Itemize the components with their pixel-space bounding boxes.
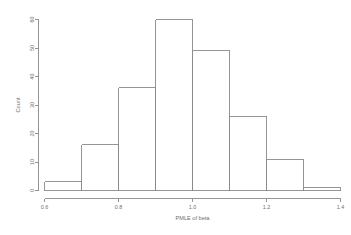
histogram-bar [82,145,119,191]
y-axis-tick-label: 10 [29,159,35,165]
y-axis-tick-label: 20 [29,131,35,137]
y-axis-tick-label: 60 [29,17,35,23]
y-axis-title: Count [15,97,21,112]
x-axis-tick-label: 1.0 [189,204,197,210]
y-axis-tick-label: 40 [29,74,35,80]
histogram-canvas: 0.60.81.01.21.40102030405060PMLE of beta… [0,0,351,235]
bars-group [45,20,341,191]
histogram-bar [267,159,304,190]
x-axis-tick-label: 1.4 [337,204,345,210]
histogram-figure: 0.60.81.01.21.40102030405060PMLE of beta… [0,0,351,235]
x-axis-title: PMLE of beta [176,215,211,221]
x-axis-tick-label: 0.6 [41,204,49,210]
x-axis-tick-label: 1.2 [263,204,271,210]
y-axis-tick-label: 30 [29,102,35,108]
histogram-bar [119,88,156,191]
histogram-bar [230,116,267,190]
y-axis-tick-label: 0 [29,189,35,192]
x-axis-tick-label: 0.8 [115,204,123,210]
histogram-bar [45,182,82,191]
histogram-bar [193,51,230,191]
histogram-bar [156,20,193,191]
y-axis-tick-label: 50 [29,45,35,51]
